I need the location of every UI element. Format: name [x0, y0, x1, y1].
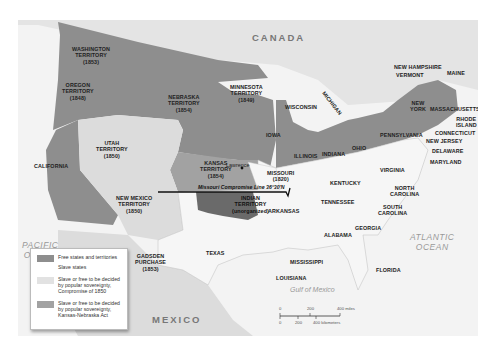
label-vermont: VERMONT [396, 72, 424, 78]
legend-item-compromise-1850: Slave or free to be decided by popular s… [37, 277, 120, 294]
legend-label-compromise-1850: Slave or free to be decided by popular s… [58, 277, 120, 294]
label-pennsylvania: PENNSYLVANIA [380, 132, 423, 138]
label-florida: FLORIDA [376, 267, 401, 273]
label-minnesota-territory: MINNESOTA TERRITORY (1849) [230, 84, 263, 103]
label-texas: TEXAS [206, 250, 224, 256]
legend-swatch-slave [37, 265, 54, 272]
label-california: CALIFORNIA [34, 163, 68, 169]
label-lawrence: Lawrence [226, 162, 249, 168]
label-illinois: ILLINOIS [294, 153, 318, 159]
label-rhode-island: RHODE ISLAND [456, 116, 477, 129]
label-missouri-compromise-line: Missouri Compromise Line 36°30'N [198, 184, 285, 190]
scale-miles-200: 200 [307, 306, 314, 311]
legend-swatch-kansas-nebraska [37, 301, 54, 308]
label-south-carolina: SOUTH CAROLINA [378, 204, 407, 217]
scale-miles-0: 0 [279, 306, 281, 311]
legend-label-slave: Slave states [58, 265, 86, 271]
label-new-hampshire: NEW HAMPSHIRE [394, 64, 442, 70]
map-legend: Free states and territories Slave states… [30, 248, 128, 330]
label-utah-territory: UTAH TERRITORY (1850) [96, 140, 128, 159]
legend-item-kansas-nebraska: Slave or free to be decided by popular s… [37, 301, 120, 318]
scale-miles-400: 400 miles [337, 306, 355, 311]
label-alabama: ALABAMA [324, 232, 352, 238]
label-north-carolina: NORTH CAROLINA [390, 185, 419, 198]
label-new-mexico-territory: NEW MEXICO TERRITORY (1850) [116, 195, 152, 214]
label-louisiana: LOUISIANA [276, 275, 307, 281]
label-nebraska-territory: NEBRASKA TERRITORY (1854) [168, 94, 200, 113]
legend-item-slave: Slave states [37, 265, 86, 272]
label-ohio: OHIO [352, 145, 366, 151]
label-connecticut: CONNECTICUT [435, 130, 475, 136]
label-gulf-of-mexico: Gulf of Mexico [290, 286, 335, 293]
scale-km-400: 400 kilometers [313, 320, 340, 325]
label-georgia: GEORGIA [355, 225, 381, 231]
scale-km-200: 200 [295, 320, 302, 325]
legend-swatch-free [37, 255, 54, 262]
label-maryland: MARYLAND [430, 159, 461, 165]
scale-bar: 0 200 400 miles 0 200 400 kilometers [278, 306, 348, 326]
label-indiana: INDIANA [322, 151, 345, 157]
label-new-york: NEW YORK [410, 100, 426, 113]
label-delaware: DELAWARE [432, 148, 463, 154]
label-maine: MAINE [447, 70, 465, 76]
label-new-jersey: NEW JERSEY [426, 138, 462, 144]
label-virginia: VIRGINIA [380, 167, 405, 173]
label-missouri: MISSOURI (1820) [267, 170, 294, 183]
label-washington-territory: WASHINGTON TERRITORY (1853) [72, 46, 110, 65]
legend-label-free: Free states and territories [58, 255, 117, 261]
legend-item-free: Free states and territories [37, 255, 117, 262]
label-kentucky: KENTUCKY [330, 180, 361, 186]
legend-swatch-compromise-1850 [37, 277, 54, 284]
scale-km-0: 0 [279, 320, 281, 325]
label-iowa: IOWA [266, 132, 281, 138]
label-tennessee: TENNESSEE [321, 199, 355, 205]
label-wisconsin: WISCONSIN [285, 104, 317, 110]
label-gadsden-purchase: GADSDEN PURCHASE (1853) [135, 253, 166, 272]
label-atlantic-ocean: ATLANTIC OCEAN [410, 232, 454, 252]
label-indian-territory: INDIAN TERRITORY (unorganized) [232, 195, 269, 214]
label-mississippi: MISSISSIPPI [290, 259, 323, 265]
legend-label-kansas-nebraska: Slave or free to be decided by popular s… [58, 301, 120, 318]
label-arkansas: ARKANSAS [268, 208, 299, 214]
label-oregon-territory: OREGON TERRITORY (1848) [62, 82, 94, 101]
label-mexico: MEXICO [152, 314, 201, 325]
label-canada: CANADA [252, 32, 305, 43]
label-massachusetts: MASSACHUSETTS [430, 106, 478, 112]
